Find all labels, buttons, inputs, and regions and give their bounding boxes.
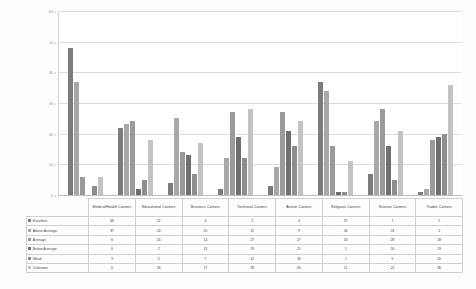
table-row: Excellent48224233771 [27,217,463,226]
y-axis-tick-label: 60 [49,10,53,14]
table-cell: 1 [322,245,369,254]
table-cell: 16 [369,245,416,254]
table-cell: 16 [276,254,323,263]
table-header-row: Medical/Health CareersEducational Career… [27,199,463,217]
table-column-header: Artistic Careers [276,199,323,217]
table-cell: 19 [416,245,463,254]
bar [168,183,173,195]
bar [442,134,447,195]
bar [198,143,203,195]
bar [330,146,335,195]
bar [74,82,79,195]
bar [80,177,85,195]
legend-row-label: Unknown [27,263,89,272]
table-cell: 2 [135,245,182,254]
table-cell: 11 [322,263,369,272]
chart-plot-wrapper: 0102030405060 [38,12,462,196]
table-column-header: Trades Careers [416,199,463,217]
legend-swatch-icon [28,247,31,250]
data-table-wrapper: Medical/Health CareersEducational Career… [26,198,462,273]
bar-group [60,12,110,195]
bar [298,121,303,195]
table-cell: 28 [229,263,276,272]
bar-groups [59,12,462,195]
table-cell: 18 [416,235,463,244]
legend-swatch-icon [28,219,31,222]
table-cell: 12 [229,226,276,235]
table-cell: 19 [229,245,276,254]
table-cell: 6 [89,263,136,272]
table-cell: 3 [89,254,136,263]
legend-swatch-icon [28,229,31,232]
table-cell: 3 [276,217,323,226]
table-cell: 6 [89,235,136,244]
bar [418,192,423,195]
table-cell: 2 [229,217,276,226]
y-axis-tick-mark [54,134,56,135]
bar [130,121,135,195]
table-cell: 4 [182,217,229,226]
bar [436,137,441,195]
bar [324,91,329,195]
table-row: Above Average37232512934242 [27,226,463,235]
bar-group [160,12,210,195]
table-cell: 24 [276,263,323,272]
table-cell: 16 [322,235,369,244]
table-column-header: Science Careers [369,199,416,217]
bar [224,158,229,195]
bar [292,146,297,195]
bar [218,189,223,195]
bar [448,85,453,195]
table-cell: 7 [182,254,229,263]
table-head: Medical/Health CareersEducational Career… [27,199,463,217]
legend-swatch-icon [28,257,31,260]
bar [180,152,185,195]
y-axis-tick-label: 50 [49,41,53,45]
bar [124,124,129,195]
table-cell: 22 [135,217,182,226]
bar [280,112,285,195]
legend-row-label: Below Average [27,245,89,254]
bar [68,48,73,195]
table-cell: 0 [89,245,136,254]
y-axis-tick-label: 40 [49,71,53,75]
table-cell: 28 [369,235,416,244]
table-column-header: Religious Careers [322,199,369,217]
bar [274,167,279,195]
bar [286,131,291,195]
table-row: Unknown618172824112136 [27,263,463,272]
bar [392,180,397,195]
bar [148,140,153,195]
table-cell: 27 [276,235,323,244]
bar [174,118,179,195]
bar-group [411,12,461,195]
table-cell: 5 [369,254,416,263]
table-cell: 20 [416,254,463,263]
table-body: Excellent48224233771Above Average3723251… [27,217,463,273]
bar [136,189,141,195]
table-cell: 27 [229,235,276,244]
legend-row-label: Average [27,235,89,244]
table-cell: 13 [182,245,229,254]
data-table: Medical/Health CareersEducational Career… [26,198,463,273]
legend-label-text: Excellent [33,219,48,223]
bar [248,109,253,195]
table-cell: 24 [369,226,416,235]
y-axis-tick-mark [54,12,56,13]
table-cell: 5 [135,254,182,263]
bar [142,180,147,195]
bar [380,109,385,195]
table-cell: 34 [322,226,369,235]
bar-group [311,12,361,195]
table-cell: 37 [89,226,136,235]
legend-label-text: Below Average [33,247,57,251]
y-axis-tick-label: 20 [49,133,53,137]
bar-group [361,12,411,195]
legend-swatch-icon [28,238,31,241]
table-cell: 21 [276,245,323,254]
table-corner-cell [27,199,89,217]
table-cell: 23 [135,226,182,235]
bar [336,192,341,195]
table-cell: 24 [135,235,182,244]
chart-screenshot: 0102030405060 Medical/Health CareersEduc… [0,0,476,289]
